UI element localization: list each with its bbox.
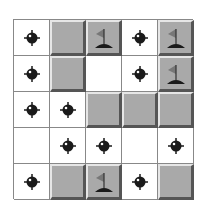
minesweeper-board bbox=[13, 19, 193, 199]
cell-r2-c4-mine[interactable] bbox=[122, 56, 158, 92]
cell-r1-c4-mine[interactable] bbox=[122, 20, 158, 56]
cell-r5-c2-hidden[interactable] bbox=[50, 164, 86, 200]
cell-r4-c3-mine[interactable] bbox=[86, 128, 122, 164]
cell-r3-c3-hidden[interactable] bbox=[86, 92, 122, 128]
mine-icon bbox=[60, 138, 76, 154]
cell-r1-c5-flag[interactable] bbox=[158, 20, 194, 56]
cell-r3-c5-hidden[interactable] bbox=[158, 92, 194, 128]
cell-r4-c4-empty[interactable] bbox=[122, 128, 158, 164]
cell-r4-c5-mine[interactable] bbox=[158, 128, 194, 164]
mine-icon bbox=[24, 66, 40, 82]
cell-r2-c1-mine[interactable] bbox=[14, 56, 50, 92]
mine-icon bbox=[132, 174, 148, 190]
cell-r5-c5-hidden[interactable] bbox=[158, 164, 194, 200]
mine-icon bbox=[24, 30, 40, 46]
cell-r4-c1-empty[interactable] bbox=[14, 128, 50, 164]
cell-r1-c2-hidden[interactable] bbox=[50, 20, 86, 56]
cell-r3-c1-mine[interactable] bbox=[14, 92, 50, 128]
mine-icon bbox=[24, 174, 40, 190]
flag-icon bbox=[163, 26, 189, 50]
cell-r5-c3-flag[interactable] bbox=[86, 164, 122, 200]
flag-icon bbox=[91, 170, 117, 194]
cell-r2-c5-flag[interactable] bbox=[158, 56, 194, 92]
flag-icon bbox=[163, 62, 189, 86]
cell-r5-c4-mine[interactable] bbox=[122, 164, 158, 200]
mine-icon bbox=[96, 138, 112, 154]
mine-icon bbox=[168, 138, 184, 154]
flag-icon bbox=[91, 26, 117, 50]
cell-r4-c2-mine[interactable] bbox=[50, 128, 86, 164]
mine-icon bbox=[132, 66, 148, 82]
cell-r2-c3-empty[interactable] bbox=[86, 56, 122, 92]
mine-icon bbox=[60, 102, 76, 118]
cell-r5-c1-mine[interactable] bbox=[14, 164, 50, 200]
mine-icon bbox=[24, 102, 40, 118]
mine-icon bbox=[132, 30, 148, 46]
cell-r1-c1-mine[interactable] bbox=[14, 20, 50, 56]
cell-r1-c3-flag[interactable] bbox=[86, 20, 122, 56]
cell-r3-c4-hidden[interactable] bbox=[122, 92, 158, 128]
cell-r3-c2-mine[interactable] bbox=[50, 92, 86, 128]
cell-r2-c2-hidden[interactable] bbox=[50, 56, 86, 92]
